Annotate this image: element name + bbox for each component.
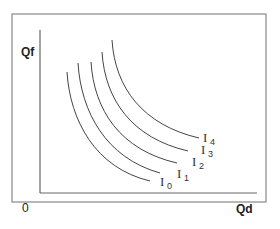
svg-text:4: 4	[210, 137, 215, 147]
curve-i4	[112, 40, 199, 138]
curves	[67, 40, 199, 181]
svg-text:I: I	[177, 166, 181, 181]
curve-label-i0: I 0	[160, 174, 172, 191]
curve-i2	[91, 62, 177, 163]
svg-text:I: I	[160, 174, 164, 189]
curve-label-i1: I 1	[177, 166, 189, 183]
x-axis-label: Qd	[236, 202, 253, 216]
curve-label-i4: I 4	[203, 130, 215, 147]
svg-text:1: 1	[184, 173, 189, 183]
svg-text:I: I	[192, 154, 196, 169]
svg-text:0: 0	[167, 181, 172, 191]
svg-text:3: 3	[208, 149, 213, 159]
svg-text:I: I	[203, 130, 207, 145]
curve-i1	[78, 63, 160, 173]
curve-i3	[102, 52, 188, 151]
frame-border	[12, 14, 266, 202]
indifference-curve-diagram: Qf Qd 0 I 0 I 1 I 2 I 3 I 4	[0, 0, 280, 229]
svg-text:2: 2	[199, 161, 204, 171]
origin-label: 0	[22, 201, 29, 215]
y-axis-label: Qf	[21, 45, 35, 59]
